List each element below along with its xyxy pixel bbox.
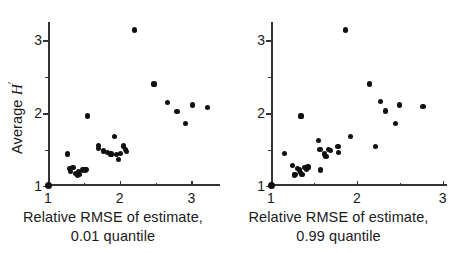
data-point <box>367 81 372 86</box>
data-point <box>124 149 129 154</box>
x-axis-caption-right-line2: 0.99 quantile <box>226 227 451 246</box>
x-tick-label-right: 3 <box>439 190 447 206</box>
data-point <box>299 172 304 177</box>
data-point <box>205 105 210 110</box>
y-axis-label: Average H′ <box>6 58 26 178</box>
y-tick-label-right: 2 <box>257 105 265 121</box>
y-minor-tick-left <box>45 77 48 78</box>
y-axis-line-right <box>271 22 273 186</box>
data-point <box>65 151 70 156</box>
data-point <box>282 151 287 156</box>
y-axis-label-prime: ′ <box>6 82 18 84</box>
x-minor-tick-left <box>84 183 85 186</box>
x-tick-label-right: 1 <box>267 190 275 206</box>
x-tick-right <box>443 181 444 186</box>
y-tick-left <box>43 113 48 114</box>
y-tick-label-left: 3 <box>34 32 42 48</box>
x-tick-label-left: 1 <box>44 190 52 206</box>
data-point <box>373 144 378 149</box>
x-tick-label-left: 3 <box>187 190 195 206</box>
y-tick-label-right: 3 <box>257 32 265 48</box>
data-point <box>393 121 398 126</box>
data-point <box>316 138 321 143</box>
data-point <box>108 151 113 156</box>
plot-area-left: 123123 <box>48 22 220 186</box>
y-tick-right <box>266 113 271 114</box>
y-minor-tick-right <box>268 77 271 78</box>
y-tick-right <box>266 40 271 41</box>
x-axis-caption-left-line2: 0.01 quantile <box>0 227 226 246</box>
data-point <box>323 154 328 159</box>
data-point <box>116 157 121 162</box>
data-point <box>132 27 137 32</box>
x-tick-left <box>191 181 192 186</box>
figure-container: Average H′ 123123 Relative RMSE of estim… <box>0 0 451 253</box>
x-tick-label-left: 2 <box>116 190 124 206</box>
plot-area-right: 123123 <box>271 22 447 186</box>
data-point <box>336 150 341 155</box>
data-point <box>70 165 75 170</box>
y-tick-label-left: 2 <box>34 105 42 121</box>
data-point <box>268 182 275 189</box>
y-minor-tick-right <box>268 150 271 151</box>
x-minor-tick-left <box>156 183 157 186</box>
data-point <box>85 113 90 118</box>
data-point <box>174 109 179 114</box>
data-point <box>378 99 383 104</box>
x-axis-caption-left: Relative RMSE of estimate, 0.01 quantile <box>0 208 226 246</box>
data-point <box>328 148 333 153</box>
x-axis-caption-right: Relative RMSE of estimate, 0.99 quantile <box>226 208 451 246</box>
data-point <box>383 108 388 113</box>
data-point <box>335 144 340 149</box>
y-tick-left <box>43 40 48 41</box>
data-point <box>165 100 170 105</box>
y-axis-line-left <box>48 22 50 186</box>
x-axis-line-right <box>271 184 447 186</box>
data-point <box>45 182 52 189</box>
y-axis-label-text: Average <box>9 99 25 153</box>
data-point <box>343 27 348 32</box>
x-tick-right <box>357 181 358 186</box>
scatter-panel-left: Average H′ 123123 Relative RMSE of estim… <box>0 0 226 253</box>
data-point <box>190 102 195 107</box>
x-axis-caption-left-line1: Relative RMSE of estimate, <box>23 209 203 225</box>
data-point <box>318 167 323 172</box>
x-minor-tick-right <box>314 183 315 186</box>
scatter-panel-right: 123123 Relative RMSE of estimate, 0.99 q… <box>226 0 451 253</box>
x-tick-label-right: 2 <box>353 190 361 206</box>
x-axis-line-left <box>48 184 220 186</box>
data-point <box>397 102 402 107</box>
data-point <box>292 172 297 177</box>
y-tick-label-left: 1 <box>34 178 42 194</box>
y-tick-label-right: 1 <box>257 178 265 194</box>
data-point <box>151 81 156 86</box>
data-point <box>420 104 425 109</box>
data-point <box>305 164 310 169</box>
data-point <box>83 167 88 172</box>
y-minor-tick-left <box>45 150 48 151</box>
data-point <box>298 113 303 118</box>
data-point <box>118 151 123 156</box>
x-minor-tick-right <box>400 183 401 186</box>
x-axis-caption-right-line1: Relative RMSE of estimate, <box>249 209 429 225</box>
y-axis-label-symbol: H <box>8 84 25 95</box>
data-point <box>112 134 117 139</box>
data-point <box>183 121 188 126</box>
data-point <box>348 134 353 139</box>
x-tick-left <box>120 181 121 186</box>
